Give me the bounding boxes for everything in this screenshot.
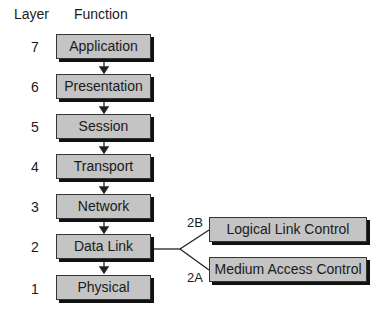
layer-number-3: 3 (20, 199, 50, 215)
arrow-7-6 (100, 58, 108, 73)
sublayer-label-2a: 2A (187, 270, 203, 285)
layer-box-network: Network (56, 194, 151, 219)
layer-box-session: Session (56, 114, 151, 139)
arrow-5-4 (100, 138, 108, 153)
layer-number-5: 5 (20, 119, 50, 135)
layer-box-physical: Physical (56, 275, 151, 300)
sublayer-label-2b: 2B (187, 215, 203, 230)
layer-number-2: 2 (20, 239, 50, 255)
layer-number-4: 4 (20, 159, 50, 175)
layer-box-application: Application (56, 34, 151, 59)
layer-box-presentation: Presentation (56, 74, 151, 99)
layer-number-1: 1 (20, 281, 50, 297)
arrow-6-5 (100, 98, 108, 113)
arrow-4-3 (100, 178, 108, 193)
layer-number-7: 7 (20, 39, 50, 55)
layer-box-transport: Transport (56, 154, 151, 179)
arrow-2-1 (100, 258, 108, 273)
layer-number-6: 6 (20, 79, 50, 95)
layer-box-data-link: Data Link (56, 234, 151, 259)
arrow-3-2 (100, 218, 108, 233)
branch-lines (154, 230, 209, 270)
sublayer-box-llc: Logical Link Control (209, 217, 367, 242)
sublayer-box-mac: Medium Access Control (209, 257, 367, 282)
